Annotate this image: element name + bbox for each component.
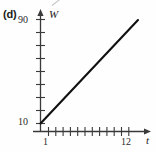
y-tick-label-90: 90	[18, 14, 28, 25]
chart-figure: (d) 90 10 1 12 W t	[0, 0, 156, 153]
y-axis-arrow-icon	[37, 9, 43, 16]
x-tick-label-12: 12	[121, 136, 131, 147]
x-axis-label: t	[146, 134, 149, 146]
y-axis-label: W	[49, 8, 58, 20]
panel-label: (d)	[3, 8, 16, 20]
x-tick-label-1: 1	[43, 136, 48, 147]
data-line-series-1	[41, 20, 139, 124]
y-tick-label-10: 10	[18, 116, 28, 127]
